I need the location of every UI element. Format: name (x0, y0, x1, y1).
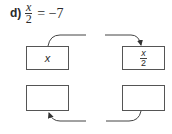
bottom-arrow-right-segment (106, 111, 141, 121)
top-right-box-fraction: x 2 (140, 49, 147, 68)
top-right-box-numerator: x (140, 49, 147, 59)
top-arrow-left-segment (48, 35, 86, 46)
top-right-box-denominator: 2 (141, 59, 146, 68)
top-arrow-right-segment (105, 35, 141, 45)
top-left-box: x (26, 46, 69, 70)
bottom-right-box[interactable] (122, 85, 165, 111)
top-left-box-text: x (45, 52, 51, 64)
top-right-box: x 2 (122, 46, 165, 70)
bottom-left-box[interactable] (26, 85, 69, 111)
bottom-arrow-left-segment (49, 113, 86, 121)
